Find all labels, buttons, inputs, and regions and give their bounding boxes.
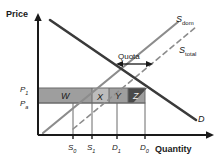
supply-domestic-label-sub: dom	[182, 20, 194, 26]
region-label-X: X	[96, 92, 104, 102]
quota-label: Quota	[118, 52, 140, 61]
price-tick-P1-sub: 1	[25, 90, 28, 96]
qty-tick-S1-sub: 1	[92, 148, 95, 154]
quota-diagram-svg: Quota Price Quantity P1 Pa S0 S1 D1 D0 S…	[0, 0, 222, 160]
demand-label: D	[198, 114, 205, 124]
region-label-Y: Y	[115, 91, 122, 101]
price-tick-Pa-sub: a	[25, 104, 28, 110]
qty-tick-D1-sub: 1	[118, 148, 121, 154]
supply-total-label-sub: total	[185, 51, 196, 57]
diagram-canvas: Quota Price Quantity P1 Pa S0 S1 D1 D0 S…	[0, 0, 222, 160]
x-axis-title: Quantity	[155, 144, 192, 154]
region-label-Z: Z	[132, 91, 139, 101]
y-axis-title: Price	[6, 9, 28, 19]
